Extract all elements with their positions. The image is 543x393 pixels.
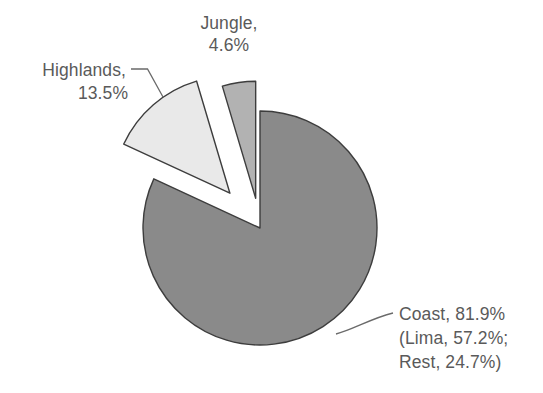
pie-chart-figure: Jungle, 4.6% Highlands, 13.5% Coast, 81.… <box>0 0 543 393</box>
pie-chart-canvas: Jungle, 4.6% Highlands, 13.5% Coast, 81.… <box>0 0 543 393</box>
label-coast-line3: Rest, 24.7%) <box>399 352 501 372</box>
label-coast: Coast, 81.9% (Lima, 57.2%; Rest, 24.7%) <box>399 304 508 372</box>
label-coast-line1: Coast, 81.9% <box>399 304 505 324</box>
label-highlands-line1: Highlands, <box>42 60 126 80</box>
label-jungle-line1: Jungle, <box>200 13 257 33</box>
label-highlands-line2: 13.5% <box>78 83 128 103</box>
label-jungle-line2: 4.6% <box>209 35 249 55</box>
label-coast-line2: (Lima, 57.2%; <box>399 328 508 348</box>
